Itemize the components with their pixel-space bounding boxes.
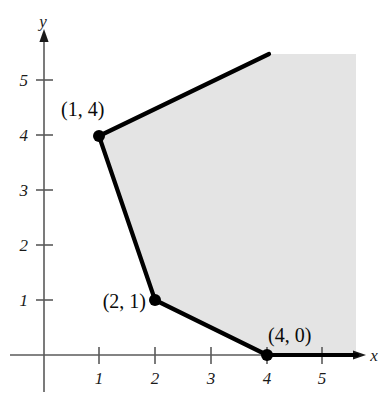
y-axis-label: y	[37, 12, 47, 31]
x-tick-label-3: 3	[206, 369, 216, 388]
vertex-label-4-0: (4, 0)	[268, 324, 311, 347]
y-tick-label-1: 1	[20, 291, 29, 310]
graph-figure: 1 2 3 4 5 1 2 3 4 5 y x (1, 4) (2, 1) (4…	[0, 0, 383, 402]
x-tick-label-1: 1	[95, 369, 104, 388]
x-tick-label-5: 5	[318, 369, 327, 388]
vertex-dot-1-4	[93, 130, 105, 142]
vertex-label-2-1: (2, 1)	[103, 290, 146, 313]
vertex-dot-2-1	[149, 294, 161, 306]
y-tick-label-2: 2	[20, 236, 29, 255]
vertex-label-1-4: (1, 4)	[61, 98, 104, 121]
x-axis-label: x	[369, 346, 378, 365]
x-tick-label-4: 4	[263, 369, 272, 388]
y-tick-label-5: 5	[20, 71, 29, 90]
vertex-dot-4-0	[261, 349, 273, 361]
x-tick-label-2: 2	[151, 369, 160, 388]
coordinate-plot: 1 2 3 4 5 1 2 3 4 5 y x (1, 4) (2, 1) (4…	[0, 0, 383, 402]
y-tick-label-4: 4	[20, 126, 29, 145]
y-tick-label-3: 3	[19, 181, 29, 200]
